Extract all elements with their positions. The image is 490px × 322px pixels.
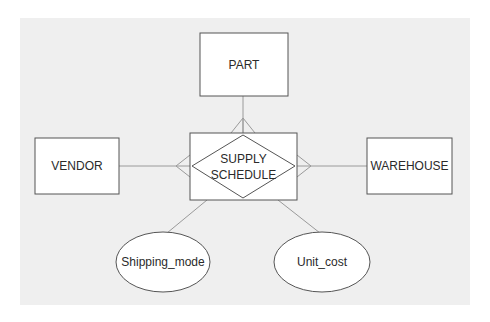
attribute-label: Unit_cost <box>297 255 348 269</box>
relationship-supply-schedule[interactable]: SUPPLY SCHEDULE <box>190 133 297 200</box>
attribute-label: Shipping_mode <box>121 255 205 269</box>
entity-warehouse[interactable]: WAREHOUSE <box>367 138 452 194</box>
attribute-unit-cost[interactable]: Unit_cost <box>274 232 370 292</box>
entity-label: PART <box>229 58 261 72</box>
relationship-label-line2: SCHEDULE <box>211 168 276 182</box>
attribute-shipping-mode[interactable]: Shipping_mode <box>116 232 210 292</box>
relationship-label-line1: SUPPLY <box>220 152 266 166</box>
entity-part[interactable]: PART <box>200 33 288 96</box>
er-diagram: PART VENDOR WAREHOUSE SUPPLY SCHEDULE Sh… <box>0 0 490 322</box>
entity-label: VENDOR <box>51 159 103 173</box>
entity-vendor[interactable]: VENDOR <box>35 138 119 194</box>
entity-label: WAREHOUSE <box>370 159 448 173</box>
